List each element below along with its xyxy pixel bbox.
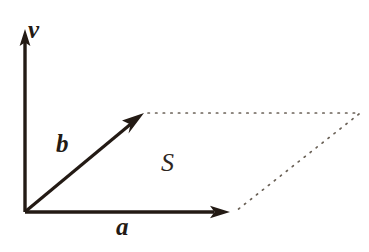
vector-b-label: b bbox=[56, 131, 69, 156]
vector-a-label: a bbox=[116, 214, 129, 239]
vector-diagram-figure: v b a S bbox=[0, 0, 369, 252]
vector-b bbox=[26, 113, 144, 211]
dotted-right-edge bbox=[236, 114, 359, 211]
vertical-axis bbox=[20, 29, 31, 212]
region-s-label: S bbox=[161, 150, 174, 176]
vector-diagram-canvas bbox=[0, 0, 369, 252]
vertical-axis-label: v bbox=[28, 17, 39, 42]
vector-b-shaft bbox=[26, 123, 132, 211]
parallelogram-dotted-edges bbox=[148, 113, 360, 211]
